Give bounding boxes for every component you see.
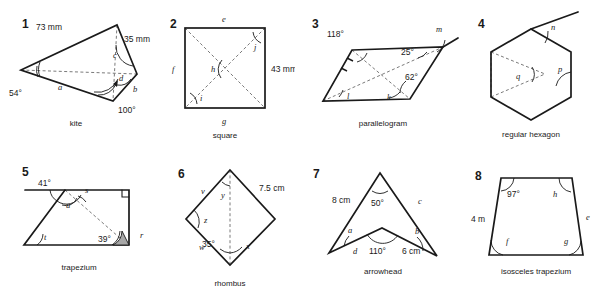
parallelogram-angle-arc-118 <box>357 53 367 62</box>
trapezium-angle-41: 41° <box>38 178 51 188</box>
figure-6-rhombus: 6 v w x y z 35° 7.5 cm rhombus <box>160 150 305 298</box>
hexagon-angle-p: p <box>557 64 562 74</box>
iso-trap-caption: isosceles trapezium <box>501 267 572 276</box>
figure-number: 6 <box>178 167 185 181</box>
iso-trap-angle-97: 97° <box>507 189 520 199</box>
figure-7-arrowhead: 7 50° 110° 8 cm 6 cm a b c d arrowhead <box>295 150 460 298</box>
figure-number: 4 <box>478 17 485 31</box>
kite-length-73: 73 mm <box>36 22 62 32</box>
parallelogram-angle-l: l <box>347 91 350 101</box>
kite-angle-54: 54° <box>9 88 22 98</box>
kite-angle-100: 100° <box>118 105 136 115</box>
rhombus-angle-z: z <box>203 215 208 225</box>
square-angle-i: i <box>200 93 203 103</box>
figure-number: 3 <box>312 17 319 31</box>
figure-1-kite: 1 73 mm 35 mm 54° 100° a b c d kite <box>0 0 160 150</box>
kite-angle-arc-c <box>116 45 133 66</box>
hexagon-angle-arc-p <box>556 72 571 86</box>
iso-trap-angle-f: f <box>506 236 510 246</box>
trapezium-angle-arc-s <box>78 196 86 202</box>
hexagon-outline <box>491 29 571 120</box>
figure-number: 5 <box>22 165 29 179</box>
parallelogram-tick-2 <box>341 68 347 71</box>
parallelogram-tick-1 <box>347 58 353 61</box>
rhombus-caption: rhombus <box>214 279 245 288</box>
figure-number: 1 <box>22 17 29 31</box>
arrowhead-side-c: c <box>418 196 422 206</box>
arrowhead-angle-a: a <box>348 225 352 235</box>
trapezium-angle-39: 39° <box>98 234 111 244</box>
parallelogram-angle-25: 25° <box>401 47 414 57</box>
rhombus-angle-y: y <box>220 190 225 200</box>
rhombus-length-75: 7.5 cm <box>259 183 285 193</box>
iso-trap-angle-h: h <box>553 189 557 199</box>
iso-trap-angle-arc-f <box>491 240 503 255</box>
trapezium-angle-t: t <box>44 232 47 242</box>
arrowhead-length-8: 8 cm <box>332 195 350 205</box>
rhombus-angle-arc-z <box>194 210 199 228</box>
worksheet-page: 1 73 mm 35 mm 54° 100° a b c d kite 2 <box>0 0 601 298</box>
square-side-g: g <box>222 116 226 126</box>
trapezium-angle-r: r <box>140 230 144 240</box>
square-side-f: f <box>172 64 176 74</box>
arrowhead-caption: arrowhead <box>364 267 402 276</box>
parallelogram-extension-line <box>443 38 458 47</box>
iso-trap-angle-arc-h <box>559 178 571 192</box>
isosceles-trapezium-outline <box>489 178 583 255</box>
square-side-e: e <box>222 14 226 24</box>
figure-2-square: 2 e f g h i j 43 mm square <box>150 0 295 150</box>
kite-angle-c: c <box>113 50 117 60</box>
arrowhead-angle-arc-110 <box>367 234 398 243</box>
kite-angle-d: d <box>119 73 124 83</box>
figure-number: 8 <box>475 169 482 183</box>
parallelogram-angle-arc-25 <box>418 52 427 58</box>
kite-outline <box>21 25 137 101</box>
square-angle-h: h <box>211 64 215 74</box>
iso-trap-side-e: e <box>586 212 590 222</box>
figure-4-regular-hexagon: 4 n p q regular hexagon <box>460 0 601 150</box>
rhombus-angle-x: x <box>245 241 250 251</box>
rhombus-angle-35: 35° <box>202 239 215 249</box>
arrowhead-angle-50: 50° <box>371 198 384 208</box>
figure-number: 2 <box>170 17 177 31</box>
square-length-43: 43 mm <box>271 64 295 74</box>
figure-3-parallelogram: 3 118° 25° 62° k l m parallelogram <box>295 0 460 150</box>
iso-trap-angle-arc-g <box>569 241 581 255</box>
arrowhead-length-6: 6 cm <box>402 246 420 256</box>
rhombus-angle-arc-x <box>230 247 242 253</box>
parallelogram-angle-62: 62° <box>405 72 418 82</box>
trapezium-angle-u: u <box>66 200 70 210</box>
kite-angle-arc-apex-upper <box>39 62 40 77</box>
parallelogram-angle-k: k <box>387 92 391 102</box>
trapezium-angle-arc-t <box>37 234 43 245</box>
trapezium-right-angle-mark <box>122 190 129 197</box>
iso-trap-length-4: 4 m <box>471 214 485 224</box>
kite-caption: kite <box>70 119 83 128</box>
arrowhead-angle-110: 110° <box>369 246 386 256</box>
hexagon-caption: regular hexagon <box>502 130 560 139</box>
trapezium-angle-arc-41 <box>50 190 57 201</box>
hexagon-angle-q: q <box>516 71 521 81</box>
arrowhead-angle-b: b <box>415 226 419 236</box>
figure-5-trapezium: 5 41° 39° r s t u trapezium <box>0 150 160 298</box>
figure-8-isosceles-trapezium: 8 97° h 4 m e f g isosceles trapezium <box>460 150 601 298</box>
rhombus-side-v: v <box>201 186 205 196</box>
rhombus-angle-arc-35 <box>220 249 230 253</box>
trapezium-angle-shaded-r <box>113 231 129 245</box>
parallelogram-diagonal-1 <box>352 50 410 99</box>
parallelogram-caption: parallelogram <box>359 119 408 128</box>
figure-number: 7 <box>313 167 320 181</box>
kite-length-35: 35 mm <box>124 34 150 44</box>
iso-trap-angle-g: g <box>564 236 568 246</box>
parallelogram-angle-118: 118° <box>327 29 344 39</box>
hexagon-angle-n: n <box>551 22 555 32</box>
parallelogram-angle-arc-62 <box>400 81 406 93</box>
kite-diagonal-vertical <box>113 25 117 101</box>
arrowhead-angle-arc-50 <box>372 191 388 193</box>
parallelogram-angle-m: m <box>436 24 442 34</box>
square-angle-j: j <box>253 42 257 52</box>
rhombus-angle-arc-y <box>222 182 230 186</box>
trapezium-caption: trapezium <box>61 263 96 272</box>
kite-side-a: a <box>58 82 62 92</box>
arrowhead-side-d: d <box>353 246 358 256</box>
